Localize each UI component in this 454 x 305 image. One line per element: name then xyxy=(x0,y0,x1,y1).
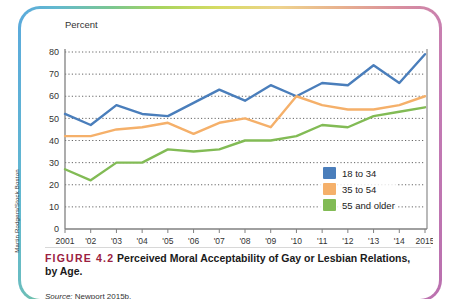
green-square-swatch xyxy=(323,199,336,211)
figure-card: Percent 010203040506070802001'02'03'04'0… xyxy=(21,9,439,299)
svg-text:50: 50 xyxy=(49,114,59,124)
orange-square-swatch xyxy=(323,183,336,195)
legend-item: 35 to 54 xyxy=(323,183,395,195)
svg-text:10: 10 xyxy=(49,202,59,212)
svg-text:70: 70 xyxy=(49,69,59,79)
svg-text:40: 40 xyxy=(49,136,59,146)
bottom-mask xyxy=(0,299,454,305)
svg-text:0: 0 xyxy=(54,224,59,234)
svg-text:80: 80 xyxy=(49,47,59,57)
svg-text:'14: '14 xyxy=(394,236,405,244)
caption-divider xyxy=(45,247,431,248)
source-value: Newport 2015b. xyxy=(75,292,131,299)
svg-text:'12: '12 xyxy=(342,236,353,244)
figure-gradient-frame: Percent 010203040506070802001'02'03'04'0… xyxy=(18,6,442,302)
line-chart: Percent 010203040506070802001'02'03'04'0… xyxy=(29,19,433,244)
legend-item: 55 and older xyxy=(323,199,395,211)
svg-text:'11: '11 xyxy=(317,236,328,244)
source-label: Source: xyxy=(45,292,73,299)
caption-line: FIGURE 4.2 Perceived Moral Acceptability… xyxy=(45,252,425,278)
blue-square-swatch xyxy=(323,167,336,179)
chart-legend: 18 to 34 35 to 54 55 and older xyxy=(320,165,398,213)
svg-text:'09: '09 xyxy=(265,236,276,244)
svg-text:'04: '04 xyxy=(137,236,148,244)
svg-text:20: 20 xyxy=(49,180,59,190)
svg-text:'07: '07 xyxy=(214,236,225,244)
source-note: Source: Newport 2015b. xyxy=(45,292,131,299)
svg-text:'08: '08 xyxy=(239,236,250,244)
figure-number: FIGURE 4.2 xyxy=(45,252,114,264)
svg-text:2015: 2015 xyxy=(416,236,433,244)
svg-text:2001: 2001 xyxy=(56,236,75,244)
legend-item: 18 to 34 xyxy=(323,167,395,179)
photo-credit: Martin Rodgers/Stock Boston xyxy=(14,156,20,266)
svg-text:'02: '02 xyxy=(85,236,96,244)
svg-text:'03: '03 xyxy=(111,236,122,244)
svg-text:'05: '05 xyxy=(162,236,173,244)
legend-label: 35 to 54 xyxy=(342,184,376,195)
svg-text:'10: '10 xyxy=(291,236,302,244)
svg-text:60: 60 xyxy=(49,91,59,101)
figure-caption: FIGURE 4.2 Perceived Moral Acceptability… xyxy=(45,252,425,278)
svg-text:30: 30 xyxy=(49,158,59,168)
legend-label: 55 and older xyxy=(342,200,395,211)
svg-text:'06: '06 xyxy=(188,236,199,244)
svg-text:'13: '13 xyxy=(368,236,379,244)
legend-label: 18 to 34 xyxy=(342,168,376,179)
